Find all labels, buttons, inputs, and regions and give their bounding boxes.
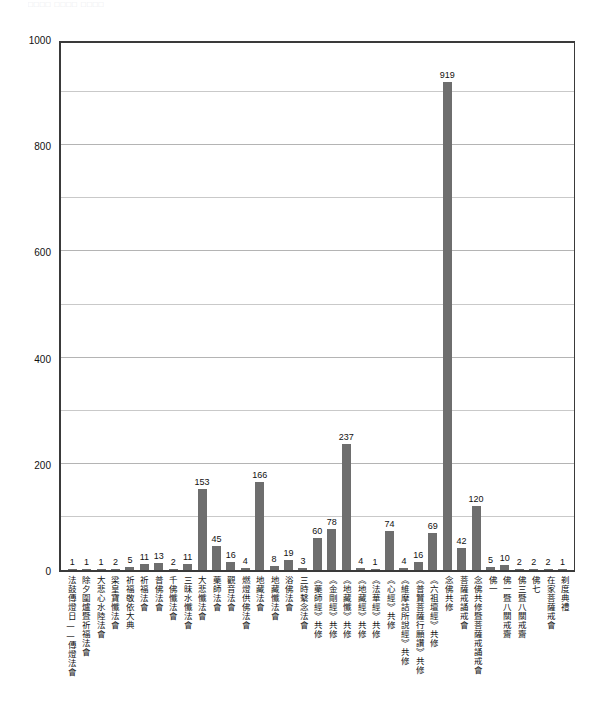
x-label-slot: 《地藏經》共修	[353, 576, 368, 708]
bar-value-label: 1	[70, 558, 75, 567]
x-axis-labels: 法鼓傳燈日——傳燈法會除夕圍爐暨祈福法會大悲心水陸法會梁皇寶懺法會祈福敬依大典祈…	[59, 576, 575, 708]
x-axis-label: 剃度典禮	[559, 576, 568, 612]
y-tick-label-200: 200	[34, 461, 51, 471]
x-axis-label: 浴佛法會	[284, 576, 293, 612]
bar-slot: 2	[512, 43, 526, 570]
bar-slot: 60	[310, 43, 324, 570]
bar-slot: 19	[281, 43, 295, 570]
bar	[544, 569, 553, 570]
x-axis-label: 《地藏經》共修	[356, 576, 365, 639]
x-label-slot: 佛七	[528, 576, 543, 708]
bar-value-label: 166	[252, 471, 267, 480]
bar-value-label: 919	[440, 71, 455, 80]
y-tick-label-1000: 1000	[29, 36, 51, 46]
bar-slot: 16	[224, 43, 238, 570]
bar	[342, 444, 351, 570]
bar-slot: 1	[555, 43, 569, 570]
top-cropped-text-sliver: □□□□ □□□□ □□□□	[28, 0, 178, 8]
bar-value-label: 237	[339, 433, 354, 442]
x-label-slot: 《法華經》共修	[368, 576, 383, 708]
x-label-slot: 觀音法會	[223, 576, 238, 708]
x-label-slot: 三昧水懺法會	[179, 576, 194, 708]
x-axis-label: 《心經》共修	[385, 576, 394, 630]
x-axis-label: 大悲懺法會	[197, 576, 206, 621]
x-axis-label: 地藏懺法會	[269, 576, 278, 621]
bar	[255, 482, 264, 570]
bar-value-label: 78	[327, 518, 337, 527]
bar	[270, 566, 279, 570]
bar	[472, 506, 481, 570]
x-axis-label: 法鼓傳燈日——傳燈法會	[66, 576, 75, 677]
bar-slot: 1	[94, 43, 108, 570]
bar-slot: 2	[541, 43, 555, 570]
x-axis-label: 三昧水懺法會	[182, 576, 191, 630]
x-label-slot: 梁皇寶懺法會	[107, 576, 122, 708]
x-axis-label: 《六祖壇經》共修	[429, 576, 438, 648]
bar-slot: 1	[79, 43, 93, 570]
x-axis-label: 燃燈供佛法會	[240, 576, 249, 630]
bar-slot: 11	[180, 43, 194, 570]
bar	[327, 529, 336, 570]
bar-value-label: 45	[211, 535, 221, 544]
x-axis-label: 觀音法會	[226, 576, 235, 612]
bar-slot: 42	[454, 43, 468, 570]
bar-slot: 78	[325, 43, 339, 570]
x-label-slot: 《藥師經》共修	[310, 576, 325, 708]
y-tick-label-600: 600	[34, 248, 51, 258]
x-label-slot: 佛三暨八關戒齋	[513, 576, 528, 708]
bar	[356, 568, 365, 570]
x-axis-label: 《法華經》共修	[371, 576, 380, 639]
x-axis-label: 在家菩薩戒會	[545, 576, 554, 630]
bar	[111, 569, 120, 570]
bar	[298, 568, 307, 570]
y-tick-label-400: 400	[34, 355, 51, 365]
bar	[154, 563, 163, 570]
bar	[183, 564, 192, 570]
bar	[529, 569, 538, 570]
x-axis-label: 佛一	[487, 576, 496, 594]
bar	[82, 569, 91, 570]
bar-slot: 16	[411, 43, 425, 570]
bar-slot: 237	[339, 43, 353, 570]
x-axis-label: 《維摩詰所說經》共修	[400, 576, 409, 666]
x-label-slot: 菩薩戒誦戒會	[455, 576, 470, 708]
x-axis-label: 藥師法會	[211, 576, 220, 612]
bar-slot: 11	[137, 43, 151, 570]
bar-slot: 153	[195, 43, 209, 570]
bar	[428, 533, 437, 570]
x-label-slot: 在家菩薩戒會	[542, 576, 557, 708]
x-label-slot: 《六祖壇經》共修	[426, 576, 441, 708]
bar-value-label: 120	[469, 495, 484, 504]
bar	[198, 489, 207, 570]
x-axis-label: 佛三暨八關戒齋	[516, 576, 525, 639]
bar-slot: 1	[368, 43, 382, 570]
bar-slot: 4	[397, 43, 411, 570]
bar-value-label: 3	[300, 557, 305, 566]
x-label-slot: 千佛懺法會	[165, 576, 180, 708]
x-axis-label: 千佛懺法會	[168, 576, 177, 621]
bar	[241, 568, 250, 570]
bar	[486, 567, 495, 570]
x-label-slot: 燃燈供佛法會	[237, 576, 252, 708]
bar-value-label: 5	[127, 556, 132, 565]
bar-slot: 69	[426, 43, 440, 570]
x-axis-label: 三時繫念法會	[298, 576, 307, 630]
bar-value-label: 19	[284, 549, 294, 558]
bar-value-label: 11	[140, 553, 149, 562]
bar-slot: 120	[469, 43, 483, 570]
bar-slot: 4	[353, 43, 367, 570]
bar-value-label: 4	[358, 557, 363, 566]
x-label-slot: 剃度典禮	[557, 576, 572, 708]
bar	[140, 564, 149, 570]
chart-page: □□□□ □□□□ □□□□ 10008006004002000 1112511…	[0, 0, 602, 712]
bar	[385, 531, 394, 570]
x-label-slot: 《金剛經》共修	[324, 576, 339, 708]
x-label-slot: 除夕圍爐暨祈福法會	[78, 576, 93, 708]
bar-slot: 1	[65, 43, 79, 570]
bar-value-label: 1	[99, 558, 104, 567]
bar-slot: 166	[252, 43, 266, 570]
bar-slot: 2	[166, 43, 180, 570]
x-axis-label: 祈福法會	[139, 576, 148, 612]
bar-value-label: 1	[560, 558, 565, 567]
y-axis: 10008006004002000	[0, 41, 57, 572]
